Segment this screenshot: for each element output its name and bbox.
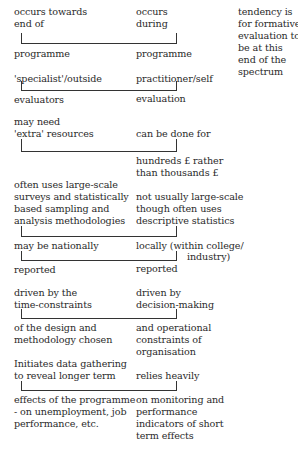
left-text: performance, etc. <box>14 418 99 430</box>
comparison-bracket <box>21 139 177 152</box>
right-text: organisation <box>136 346 196 358</box>
right-text: indicators of short <box>136 418 224 430</box>
right-text: occurs <box>136 6 168 18</box>
right-text: hundreds £ rather <box>136 155 223 167</box>
left-text: Initiates data gathering <box>14 358 127 370</box>
left-text: of the design and <box>14 322 97 334</box>
right-text: than thousands £ <box>136 167 218 179</box>
right-text: industry) <box>187 251 230 263</box>
right-text: constraints of <box>136 334 201 346</box>
comparison-bracket <box>21 226 177 237</box>
left-text: evaluators <box>14 94 64 106</box>
note-line: be at this <box>238 42 283 54</box>
note-line: for formative <box>238 18 298 30</box>
left-text: methodology chosen <box>14 334 112 346</box>
right-text: evaluation <box>136 93 186 105</box>
left-text: end of <box>14 18 44 30</box>
note-line: spectrum <box>238 66 283 78</box>
left-text: may need <box>14 116 60 128</box>
comparison-bracket <box>21 81 177 91</box>
comparison-bracket <box>21 33 177 44</box>
right-text: programme <box>136 48 192 60</box>
right-text: on monitoring and <box>136 394 224 406</box>
left-text: occurs towards <box>14 6 87 18</box>
left-text: based sampling and <box>14 203 109 215</box>
left-text: often uses large-scale <box>14 179 118 191</box>
left-text: surveys and statistically <box>14 191 129 203</box>
left-text: reported <box>14 264 56 276</box>
left-text: effects of the programme <box>14 394 135 406</box>
comparison-bracket <box>21 309 177 319</box>
right-text: not usually large-scale <box>136 191 243 203</box>
right-text: performance <box>136 406 197 418</box>
left-text: driven by the <box>14 287 77 299</box>
right-text: reported <box>136 263 178 275</box>
right-text: term effects <box>136 430 194 442</box>
right-text: during <box>136 18 168 30</box>
right-text: driven by <box>136 287 181 299</box>
comparison-bracket <box>21 381 177 391</box>
left-text: - on unemployment, job <box>14 406 126 418</box>
note-line: evaluation to <box>238 30 298 42</box>
comparison-bracket <box>21 251 177 261</box>
note-line: end of the <box>238 54 286 66</box>
right-text: and operational <box>136 322 211 334</box>
note-line: tendency is <box>238 6 292 18</box>
left-text: programme <box>14 48 70 60</box>
right-text: though often uses <box>136 203 221 215</box>
